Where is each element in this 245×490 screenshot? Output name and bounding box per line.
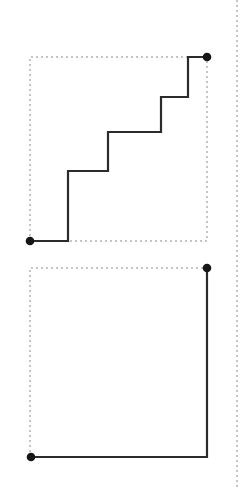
bottom-figure-group — [27, 264, 212, 462]
figure-canvas — [0, 0, 245, 490]
start-dot-top — [26, 237, 35, 246]
staircase-path-top — [30, 57, 207, 241]
dotted-bounding-box-top — [30, 57, 207, 241]
diagram-canvas — [0, 0, 245, 490]
dotted-bounding-box-bottom — [30, 268, 207, 457]
end-dot-top — [203, 53, 212, 62]
corner-path-bottom — [31, 268, 207, 457]
top-figure-group — [26, 53, 212, 246]
end-dot-bottom — [203, 264, 212, 273]
start-dot-bottom — [27, 453, 36, 462]
